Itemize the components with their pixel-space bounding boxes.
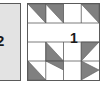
quilt-panel-2[interactable]: 2 xyxy=(0,3,21,81)
cell-r0c2-blank xyxy=(64,4,82,23)
cell-r3c2-blank xyxy=(64,61,82,80)
grid-row-1 xyxy=(28,23,99,42)
quilt-panel-1[interactable]: 1 xyxy=(27,3,100,81)
cell-r2c0-blank xyxy=(28,42,46,61)
quilt-block-grid xyxy=(28,4,99,80)
diagram-canvas: 2 xyxy=(0,0,101,85)
panel-label-1: 1 xyxy=(70,31,78,45)
panel-label-2: 2 xyxy=(0,33,4,48)
cell-r1-blank-band xyxy=(28,23,99,42)
